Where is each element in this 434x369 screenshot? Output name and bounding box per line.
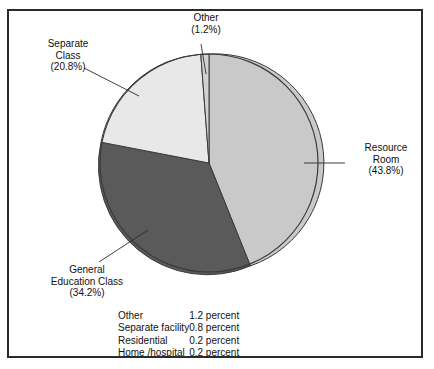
- slice-label-resource-room-pct: (43.8%): [348, 165, 424, 177]
- slice-label-general-education-pct: (34.2%): [28, 287, 146, 299]
- footnote-value-separate-facility: 0.8 percent: [189, 322, 239, 334]
- footnote-header-label: Other: [118, 310, 189, 322]
- slice-label-resource-room-line2: Room: [348, 154, 424, 166]
- footnote-label-home-hospital: Home /hospital: [118, 347, 189, 359]
- footnote-label-separate-facility: Separate facility: [118, 322, 189, 334]
- slice-label-general-education-line2: Education Class: [28, 276, 146, 288]
- footnote-value-residential: 0.2 percent: [189, 335, 239, 347]
- slice-label-other: Other (1.2%): [164, 12, 248, 35]
- footnote-label-residential: Residential: [118, 335, 189, 347]
- footnote-value-home-hospital: 0.2 percent: [189, 347, 239, 359]
- slice-label-separate-class-line2: Class: [20, 50, 116, 62]
- footnote-row: Separate facility 0.8 percent: [118, 322, 239, 334]
- footnote-row: Home /hospital 0.2 percent: [118, 347, 239, 359]
- slice-label-resource-room: Resource Room (43.8%): [348, 142, 424, 177]
- slice-label-separate-class-line1: Separate: [20, 38, 116, 50]
- slice-label-separate-class-pct: (20.8%): [20, 61, 116, 73]
- slice-label-general-education-line1: General: [28, 264, 146, 276]
- slice-label-resource-room-line1: Resource: [348, 142, 424, 154]
- footnote-row: Residential 0.2 percent: [118, 335, 239, 347]
- slice-label-other-pct: (1.2%): [164, 24, 248, 36]
- slice-label-general-education-class: General Education Class (34.2%): [28, 264, 146, 299]
- slice-label-separate-class: Separate Class (20.8%): [20, 38, 116, 73]
- footnote-table: Other 1.2 percent Separate facility 0.8 …: [118, 310, 239, 360]
- footnote-header-value: 1.2 percent: [189, 310, 239, 322]
- pie-chart-figure: Other (1.2%) Separate Class (20.8%) Reso…: [0, 0, 434, 369]
- footnote-block: Other 1.2 percent Separate facility 0.8 …: [118, 310, 239, 360]
- footnote-row-header: Other 1.2 percent: [118, 310, 239, 322]
- slice-label-other-name: Other: [164, 12, 248, 24]
